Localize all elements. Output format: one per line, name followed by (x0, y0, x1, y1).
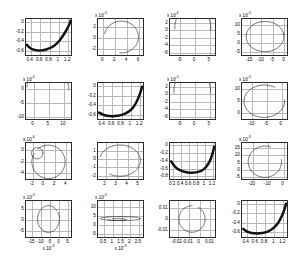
y-tick-label: 0 (237, 167, 240, 172)
plot-area (25, 82, 72, 120)
y-tick-label: -1 (92, 164, 96, 169)
figure-canvas: 0-0.2-0.4-0.60.40.60.811.220-20246x 10-3… (0, 0, 296, 259)
x-tick-label: 0.6 (36, 57, 42, 62)
series-nyquist-loop (248, 146, 281, 177)
y-tick-label: -0.8 (160, 173, 168, 178)
x-tick-label: 0.4 (26, 57, 32, 62)
x-tick-label: 2 (53, 181, 56, 186)
y-tick-label: -0.4 (16, 38, 24, 43)
y-tick-label: -0.2 (88, 92, 96, 97)
series-nyquist-loop (100, 145, 140, 176)
x-tick-label: 2 (113, 57, 116, 62)
y-tick-label: 0 (93, 221, 96, 226)
x-tick-label: -15 (246, 57, 253, 62)
subplot-r1c3: 20-2-4-6-505x 10-6 (169, 18, 216, 56)
x-tick-label: 0.01 (205, 239, 214, 244)
x-axis-exponent-label: x 10-3 (115, 244, 127, 251)
y-tick-label: 5 (237, 30, 240, 35)
series-nyquist-loop (244, 85, 285, 117)
y-tick-label: 1 (93, 147, 96, 152)
series-locus (243, 204, 286, 234)
plot-area (25, 200, 72, 238)
plot-area (97, 18, 144, 56)
y-tick-label: 0 (21, 18, 24, 23)
x-axis-exponent-label: x 10-3 (43, 244, 55, 251)
x-tick-label: -15 (28, 239, 35, 244)
x-tick-label: 0 (281, 181, 284, 186)
y-tick-label: 2 (165, 19, 168, 24)
x-tick-label: 0.6 (185, 181, 191, 186)
y-tick-label: -2 (92, 46, 96, 51)
y-tick-label: -4 (164, 42, 168, 47)
subplot-r2c1: 0-5-100510x 10-4 (25, 82, 72, 120)
series-locus (175, 6, 211, 31)
x-tick-label: 1.2 (279, 239, 285, 244)
x-tick-label: 1 (129, 121, 132, 126)
data-curve (242, 143, 287, 179)
y-tick-label: 2 (165, 83, 168, 88)
y-tick-label: -0.6 (88, 112, 96, 117)
x-tick-label: 3 (114, 181, 117, 186)
data-curve (170, 143, 215, 179)
x-tick-label: 0 (193, 121, 196, 126)
y-tick-label: 2 (93, 23, 96, 28)
plot-area (241, 18, 288, 56)
x-tick-label: -10 (257, 57, 264, 62)
y-tick-label: 10 (235, 152, 240, 157)
x-tick-label: -10 (264, 181, 271, 186)
y-tick-label: -0.01 (157, 227, 167, 232)
plot-area (169, 82, 216, 120)
plot-area (169, 200, 216, 238)
x-tick-label: 0.8 (261, 239, 267, 244)
data-curve (98, 201, 143, 237)
x-tick-label: -5 (177, 121, 181, 126)
y-axis-exponent-label: x 10-3 (95, 11, 107, 18)
x-tick-label: 0.4 (98, 121, 104, 126)
series-spiral (38, 206, 60, 233)
x-tick-label: 1.2 (64, 57, 70, 62)
y-tick-label: 0 (21, 217, 24, 222)
series-small-loop (32, 148, 43, 159)
subplot-r4c1: 50-5-15-10-505x 10-3x 10-3 (25, 200, 72, 238)
x-tick-label: 0 (279, 121, 282, 126)
x-tick-label: 5 (136, 181, 139, 186)
y-tick-label: -5 (20, 228, 24, 233)
x-tick-label: 5 (207, 57, 210, 62)
plot-area (169, 18, 216, 56)
subplot-r1c1: 0-0.2-0.4-0.60.40.60.811.2 (25, 18, 72, 56)
y-tick-label: 0 (93, 156, 96, 161)
y-tick-label: 10 (235, 85, 240, 90)
y-axis-exponent-label: x 10-3 (95, 193, 107, 200)
subplot-r1c2: 20-20246x 10-3 (97, 18, 144, 56)
y-tick-label: 0.01 (159, 204, 168, 209)
series-spiral-inner (108, 219, 126, 221)
y-tick-label: -0.2 (232, 210, 240, 215)
y-tick-label: -0.2 (160, 150, 168, 155)
series-nyquist-loop (246, 21, 284, 51)
y-tick-label: 0 (165, 91, 168, 96)
subplot-r2c3: 20-2-4-6-505x 10-5 (169, 82, 216, 120)
x-tick-label: -20 (248, 181, 255, 186)
plot-area (97, 142, 144, 180)
y-tick-label: -5 (236, 174, 240, 179)
subplot-r4c2: 1050-50.511.522.5x 10-3x 10-3 (97, 200, 144, 238)
x-tick-label: 0.5 (100, 239, 106, 244)
x-tick-label: 4 (125, 181, 128, 186)
x-tick-label: 5 (66, 239, 69, 244)
x-tick-label: 0.2 (169, 181, 175, 186)
x-tick-label: 0 (31, 121, 34, 126)
x-tick-label: 0 (57, 239, 60, 244)
series-locus (27, 21, 71, 51)
y-tick-label: -2 (92, 172, 96, 177)
series-locus (174, 69, 211, 94)
series-large-loop (32, 145, 65, 178)
y-axis-exponent-label: x 10-3 (239, 75, 251, 82)
x-tick-label: 6 (137, 57, 140, 62)
y-tick-label: -2 (20, 158, 24, 163)
subplot-r3c1: 0-2-4-2024x 10-6 (25, 142, 72, 180)
y-tick-label: -0.4 (88, 102, 96, 107)
x-tick-label: -10 (248, 121, 255, 126)
subplot-r1c4: 1050-5-15-10-50x 10-3 (241, 18, 288, 56)
subplot-r3c2: 10-1-22345 (97, 142, 144, 180)
x-tick-label: 0.8 (45, 57, 51, 62)
